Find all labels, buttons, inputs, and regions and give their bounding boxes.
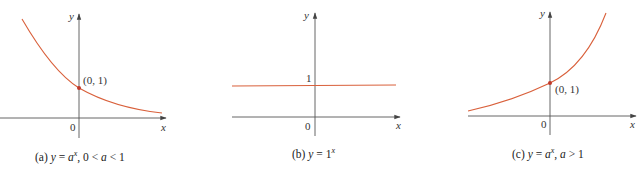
origin-label: 0 xyxy=(541,118,547,130)
y-tick-label-1: 1 xyxy=(306,72,312,84)
panel-a: (0, 1) y x 0 (a) y = ax, 0 < a < 1 xyxy=(0,10,166,164)
panel-c: (0, 1) y x 0 (c) y = ax, a > 1 xyxy=(468,7,636,161)
point-label: (0, 1) xyxy=(555,83,579,96)
caption-b: (b) y = 1x xyxy=(292,146,335,161)
x-axis-label: x xyxy=(629,118,635,130)
y-axis-label: y xyxy=(539,7,545,19)
point-0-1 xyxy=(77,86,81,90)
y-axis-label: y xyxy=(303,9,309,21)
horizontal-line-y-equals-1 xyxy=(232,85,396,86)
origin-label: 0 xyxy=(305,120,311,132)
y-axis-label: y xyxy=(68,10,74,22)
caption-a: (a) y = ax, 0 < a < 1 xyxy=(35,149,125,164)
exponential-function-figure: (0, 1) y x 0 (a) y = ax, 0 < a < 1 1 y x… xyxy=(0,0,637,171)
point-label: (0, 1) xyxy=(83,74,107,87)
increasing-exponential-curve xyxy=(468,13,606,111)
x-axis-label: x xyxy=(395,119,401,131)
caption-c: (c) y = ax, a > 1 xyxy=(512,146,584,161)
decreasing-exponential-curve xyxy=(22,19,162,113)
panel-b: 1 y x 0 (b) y = 1x xyxy=(232,9,401,161)
x-axis-label: x xyxy=(160,121,166,133)
point-0-1 xyxy=(548,81,552,85)
origin-label: 0 xyxy=(70,121,76,133)
